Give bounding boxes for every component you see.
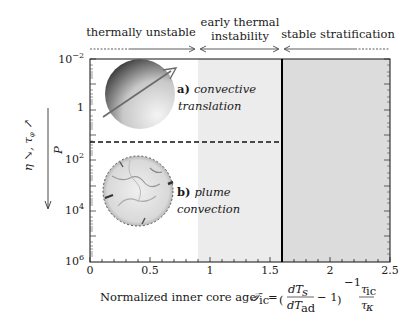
x-tick-1.5: 1.5 [261,264,279,277]
svg-text:): ) [337,293,342,307]
regime-arrows [90,46,390,52]
y-tick-1e6: 106 [65,253,84,268]
x-axis-label: Normalized inner core age 𝒯 ic = ( dT s … [100,275,376,315]
annotation-b-line2: convection [177,202,240,216]
regime-label-early-thermal-line1: early thermal [201,15,280,29]
svg-text:−1: −1 [344,275,361,289]
plume-convection-inset [103,156,173,226]
convective-translation-inset [103,59,176,129]
regime-label-thermally-unstable: thermally unstable [86,25,196,39]
y-tick-1e4: 104 [65,202,84,217]
annotation-b: b)plume [177,185,231,199]
annotation-a: a)convective [177,82,256,96]
y-tick-1e2: 102 [65,151,84,166]
chart: thermally unstable early thermal instabi… [0,0,414,326]
annotation-a-line2: translation [178,99,241,113]
svg-text:κ: κ [365,300,374,314]
svg-text:Normalized inner core age: Normalized inner core age [100,290,256,304]
x-tick-2.5: 2.5 [381,264,399,277]
x-tick-1: 1 [207,264,214,277]
svg-text:ad: ad [301,301,316,315]
y-axis-label: P [51,146,65,155]
x-tick-2: 2 [327,264,334,277]
y-tick-1e-2: 10−2 [58,51,84,66]
x-tick-0: 0 [87,264,94,277]
svg-text:(: ( [279,293,284,307]
y-tick-1: 1 [77,101,84,114]
x-tick-0.5: 0.5 [141,264,159,277]
svg-text:=: = [268,290,278,304]
region-stable-stratification [282,59,390,262]
svg-text:− 1: − 1 [317,290,338,304]
regime-label-early-thermal-line2: instability [211,29,269,43]
regime-label-stable-stratification: stable stratification [281,27,395,41]
svg-text:ic: ic [366,284,376,298]
y-axis-annotation: η ↘, τφ ↗ [21,119,36,171]
